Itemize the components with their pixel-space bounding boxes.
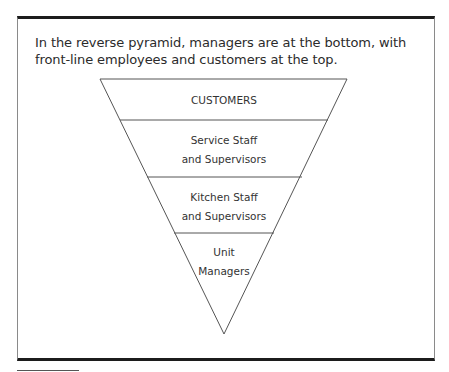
- tier-unit-managers: Unit Managers: [198, 245, 250, 279]
- tier-kitchen-staff-line-2: and Supervisors: [182, 209, 267, 224]
- tier-unit-managers-line-2: Managers: [198, 264, 250, 279]
- tier-customers: CUSTOMERS: [191, 93, 257, 108]
- tier-service-staff: Service Staff and Supervisors: [182, 133, 267, 167]
- tier-kitchen-staff-line-1: Kitchen Staff: [182, 190, 267, 205]
- inverted-pyramid-diagram: [0, 0, 449, 372]
- tier-kitchen-staff: Kitchen Staff and Supervisors: [182, 190, 267, 224]
- footnote-rule: [17, 370, 79, 371]
- tier-service-staff-line-1: Service Staff: [182, 133, 267, 148]
- tier-service-staff-line-2: and Supervisors: [182, 152, 267, 167]
- tier-customers-line-1: CUSTOMERS: [191, 93, 257, 108]
- tier-unit-managers-line-1: Unit: [198, 245, 250, 260]
